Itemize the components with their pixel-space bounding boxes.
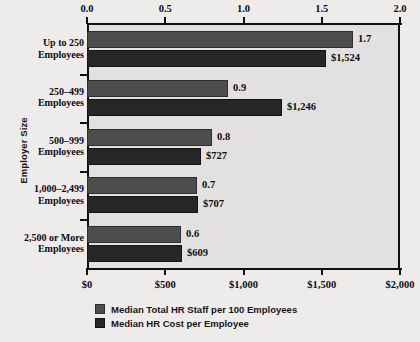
category-label-line: 500–999 bbox=[6, 135, 84, 147]
legend-swatch-cost-icon bbox=[95, 318, 105, 328]
top-axis-tick bbox=[399, 17, 401, 24]
bottom-axis-tick bbox=[164, 268, 166, 275]
bar-cost bbox=[87, 148, 201, 165]
bar-value-label: 0.7 bbox=[202, 179, 215, 190]
bar-cost bbox=[87, 196, 198, 213]
bar-value-label: 0.6 bbox=[186, 228, 199, 239]
category-label-line: Employees bbox=[6, 97, 84, 109]
top-axis-tick-label: 1.5 bbox=[292, 3, 352, 14]
bar-cost bbox=[87, 99, 282, 116]
hr-metrics-bar-chart: Employer Size Up to 250Employees250–499E… bbox=[0, 0, 420, 342]
category-separator-tick bbox=[80, 219, 88, 221]
bar-value-label: $707 bbox=[203, 198, 224, 209]
bottom-axis-tick bbox=[86, 268, 88, 275]
category-label-line: Employees bbox=[6, 49, 84, 61]
category-separator-tick bbox=[80, 171, 88, 173]
category-label-line: Up to 250 bbox=[6, 37, 84, 49]
top-axis-tick bbox=[86, 17, 88, 24]
bar-value-label: 1.7 bbox=[358, 33, 371, 44]
top-axis-tick-label: 2.0 bbox=[370, 3, 420, 14]
bar-value-label: $727 bbox=[206, 150, 227, 161]
bar-cost bbox=[87, 245, 182, 262]
legend-label-cost: Median HR Cost per Employee bbox=[111, 318, 249, 329]
category-label-group: Up to 250Employees250–499Employees500–99… bbox=[6, 25, 84, 268]
bottom-axis-tick-label: $500 bbox=[135, 279, 195, 290]
top-axis-tick-label: 0.5 bbox=[135, 3, 195, 14]
top-axis-tick-label: 0.0 bbox=[57, 3, 117, 14]
bar-staff bbox=[87, 31, 353, 48]
bottom-axis-tick bbox=[243, 268, 245, 275]
bottom-axis-tick-label: $2,000 bbox=[370, 279, 420, 290]
bar-value-label: $1,246 bbox=[287, 101, 316, 112]
top-axis-tick bbox=[321, 17, 323, 24]
bottom-axis-tick bbox=[399, 268, 401, 275]
category-separator-tick bbox=[80, 74, 88, 76]
bar-value-label: $1,524 bbox=[331, 52, 360, 63]
category-label-line: Employees bbox=[6, 195, 84, 207]
top-axis-tick-label: 1.0 bbox=[214, 3, 274, 14]
bar-value-label: 0.8 bbox=[217, 131, 230, 142]
bar-staff bbox=[87, 80, 228, 97]
category-label: 500–999Employees bbox=[6, 135, 84, 158]
bar-value-label: 0.9 bbox=[233, 82, 246, 93]
bottom-axis-tick-label: $1,000 bbox=[214, 279, 274, 290]
legend-swatch-staff-icon bbox=[95, 304, 105, 314]
category-label: 1,000–2,499Employees bbox=[6, 183, 84, 206]
bottom-axis-tick bbox=[321, 268, 323, 275]
bar-staff bbox=[87, 129, 212, 146]
category-label: 250–499Employees bbox=[6, 86, 84, 109]
top-axis-tick bbox=[243, 17, 245, 24]
category-label: Up to 250Employees bbox=[6, 37, 84, 60]
bar-staff bbox=[87, 226, 181, 243]
bottom-axis-tick-label: $1,500 bbox=[292, 279, 352, 290]
bar-cost bbox=[87, 50, 326, 67]
category-label-line: Employees bbox=[6, 146, 84, 158]
category-label: 2,500 or MoreEmployees bbox=[6, 232, 84, 255]
category-label-line: 1,000–2,499 bbox=[6, 183, 84, 195]
category-label-line: 2,500 or More bbox=[6, 232, 84, 244]
legend-item-cost: Median HR Cost per Employee bbox=[95, 316, 325, 330]
legend-item-staff: Median Total HR Staff per 100 Employees bbox=[95, 302, 325, 316]
bar-staff bbox=[87, 177, 197, 194]
top-axis-tick bbox=[164, 17, 166, 24]
bottom-axis-tick-label: $0 bbox=[57, 279, 117, 290]
bar-value-label: $609 bbox=[187, 247, 208, 258]
category-label-line: Employees bbox=[6, 243, 84, 255]
legend-label-staff: Median Total HR Staff per 100 Employees bbox=[111, 304, 297, 315]
category-separator-tick bbox=[80, 122, 88, 124]
chart-legend: Median Total HR Staff per 100 Employees … bbox=[0, 302, 420, 330]
category-label-line: 250–499 bbox=[6, 86, 84, 98]
